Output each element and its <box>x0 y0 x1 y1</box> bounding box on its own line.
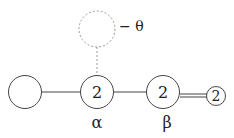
node-end-label: 2 <box>212 88 221 104</box>
node-alpha-label: 2 <box>92 83 102 102</box>
node-left <box>9 76 42 109</box>
dynkin-diagram: 2 2 2 α β − θ <box>0 0 234 138</box>
node-beta-label: 2 <box>158 83 168 102</box>
node-theta <box>79 11 115 47</box>
node-alpha-sublabel: α <box>92 113 103 132</box>
node-theta-sublabel: − θ <box>119 18 144 34</box>
node-beta-sublabel: β <box>162 113 171 132</box>
